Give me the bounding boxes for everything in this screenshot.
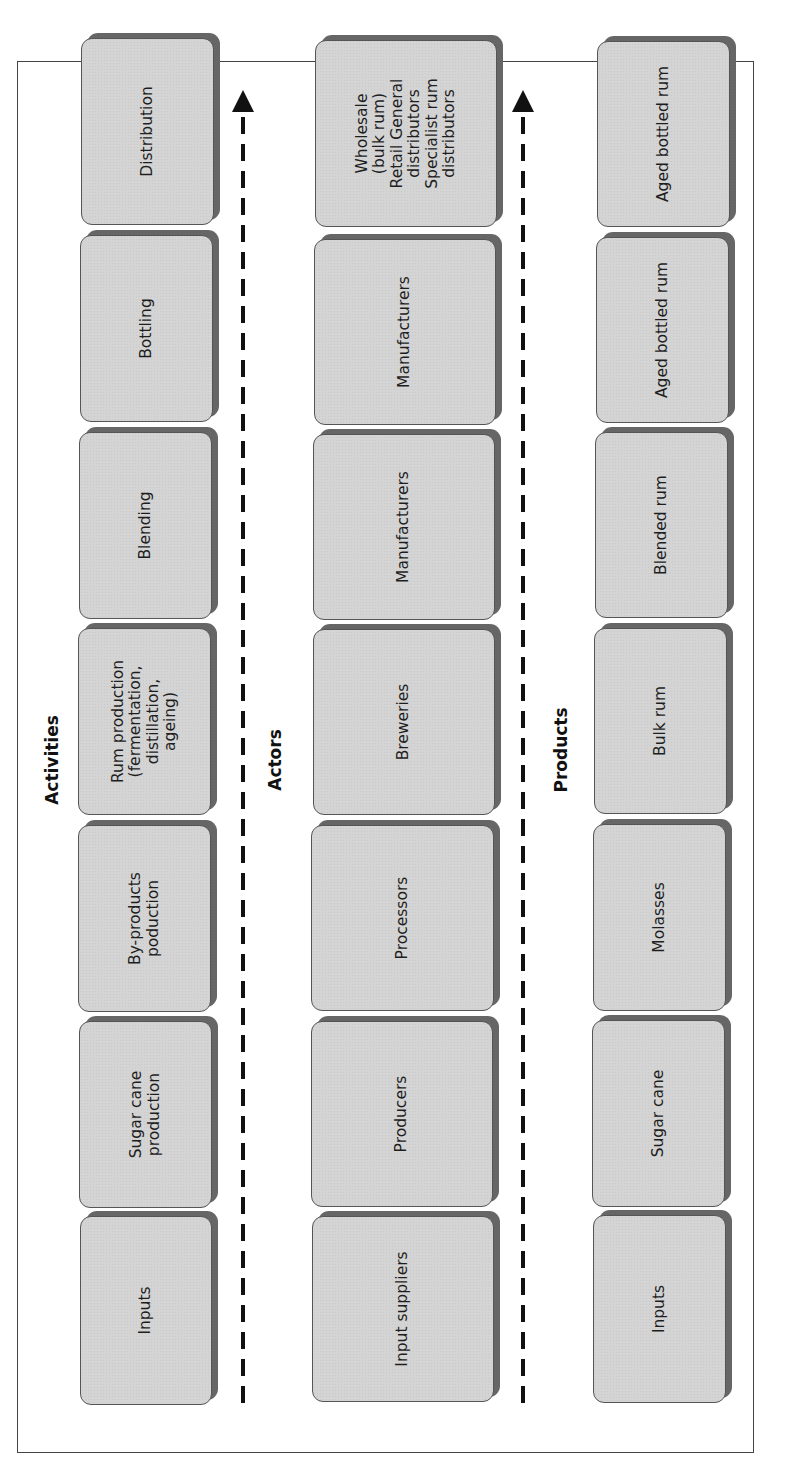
box-label: Wholesale (bulk rum) Retail General dist… [354, 78, 459, 189]
product-box-bulk-rum: Bulk rum [594, 628, 727, 814]
actor-box-manufacturers-2: Manufacturers [314, 239, 496, 425]
box-label: Aged bottled rum [655, 66, 673, 202]
product-box-aged-bottled-rum-1: Aged bottled rum [596, 237, 729, 423]
actor-box-producers: Producers [311, 1021, 493, 1207]
arrow-head-icon [512, 90, 534, 112]
box-label: Producers [393, 1076, 411, 1153]
box-label: Manufacturers [395, 471, 413, 583]
row-title-activities: Activities [42, 715, 62, 805]
box-label: Sugar cane production [128, 1071, 163, 1159]
row-title-actors: Actors [265, 729, 285, 791]
box-label: Blending [137, 491, 155, 559]
box-label: Bulk rum [652, 686, 670, 756]
actor-box-processors: Processors [311, 825, 494, 1011]
product-box-sugar-cane: Sugar cane [592, 1020, 725, 1207]
box-label: Manufacturers [396, 276, 414, 388]
activity-box-sugar-cane-production: Sugar cane production [79, 1021, 212, 1208]
box-label: Inputs [651, 1285, 669, 1333]
box-label: Processors [394, 877, 412, 960]
box-label: Rum production (fermentation, distillati… [110, 660, 180, 783]
product-box-aged-bottled-rum-2: Aged bottled rum [597, 41, 730, 227]
product-box-blended-rum: Blended rum [595, 432, 728, 618]
row-title-products: Products [551, 707, 571, 792]
actor-box-breweries: Breweries [313, 629, 495, 815]
box-label: Inputs [137, 1286, 155, 1334]
dashed-line [241, 110, 245, 1403]
activity-box-rum-production: Rum production (fermentation, distillati… [78, 628, 211, 815]
box-label: Aged bottled rum [654, 262, 672, 398]
activity-box-distribution: Distribution [81, 38, 214, 225]
box-label: Blended rum [653, 475, 671, 575]
arrow-head-icon [232, 90, 254, 112]
activity-box-inputs: Inputs [80, 1216, 212, 1405]
product-box-molasses: Molasses [593, 824, 726, 1011]
box-label: By-products poduction [127, 872, 162, 965]
diagram-canvas: Activities Inputs Sugar cane production … [0, 0, 788, 1481]
actor-box-distributors: Wholesale (bulk rum) Retail General dist… [315, 40, 497, 227]
activity-box-bottling: Bottling [80, 235, 213, 422]
box-label: Distribution [139, 86, 157, 176]
flow-arrow-activities-to-actors [241, 90, 245, 1403]
box-label: Bottling [138, 298, 156, 359]
box-label: Molasses [651, 882, 669, 952]
dashed-line [521, 110, 525, 1403]
box-label: Input suppliers [394, 1251, 412, 1366]
actor-box-manufacturers-1: Manufacturers [313, 434, 495, 620]
box-label: Sugar cane [650, 1070, 668, 1158]
activity-box-by-products-production: By-products poduction [78, 825, 211, 1012]
box-label: Breweries [395, 684, 413, 761]
product-box-inputs: Inputs [593, 1215, 726, 1403]
activity-box-blending: Blending [79, 432, 212, 619]
actor-box-input-suppliers: Input suppliers [312, 1216, 494, 1402]
flow-arrow-actors-to-products [521, 90, 525, 1403]
